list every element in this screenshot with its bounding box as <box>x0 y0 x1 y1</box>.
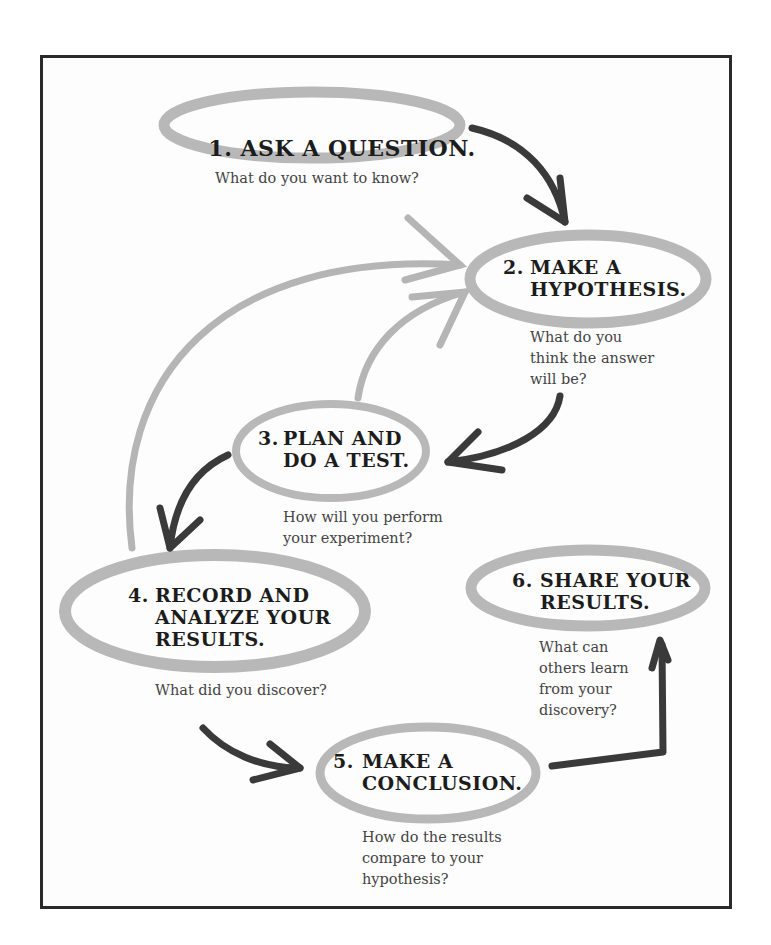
step2-title: MAKE A HYPOTHESIS. <box>530 257 687 301</box>
step4-question: What did you discover? <box>155 680 327 701</box>
step1-title: 1. ASK A QUESTION. <box>192 111 476 162</box>
step3-question: How will you perform your experiment? <box>283 507 443 549</box>
step2-number: 2. <box>503 257 524 279</box>
step6-number: 6. <box>512 570 533 592</box>
step5-number: 5. <box>333 751 354 773</box>
step6-title: SHARE YOUR RESULTS. <box>540 570 691 614</box>
step4-number: 4. <box>128 585 149 607</box>
step1-question: What do you want to know? <box>215 168 419 189</box>
arrow-2-to-3 <box>448 396 560 462</box>
step5-question: How do the results compare to your hypot… <box>362 827 502 890</box>
step1-number: 1. <box>208 135 232 161</box>
arrow-1-to-2 <box>472 128 565 222</box>
arrowhead-4-to-2 <box>405 218 460 280</box>
arrow-3-to-4 <box>170 455 228 548</box>
step5-title: MAKE A CONCLUSION. <box>362 751 522 795</box>
arrow-3-to-2 <box>358 292 465 398</box>
arrow-4-to-5 <box>203 728 300 768</box>
step3-number: 3. <box>258 428 279 450</box>
step2-question: What do you think the answer will be? <box>530 327 654 390</box>
step6-question: What can others learn from your discover… <box>539 637 629 721</box>
arrowhead-1-to-2 <box>527 178 565 222</box>
step4-title: RECORD AND ANALYZE YOUR RESULTS. <box>155 585 331 651</box>
step1-label: ASK A QUESTION. <box>240 135 475 161</box>
step3-title: PLAN AND DO A TEST. <box>283 428 410 472</box>
